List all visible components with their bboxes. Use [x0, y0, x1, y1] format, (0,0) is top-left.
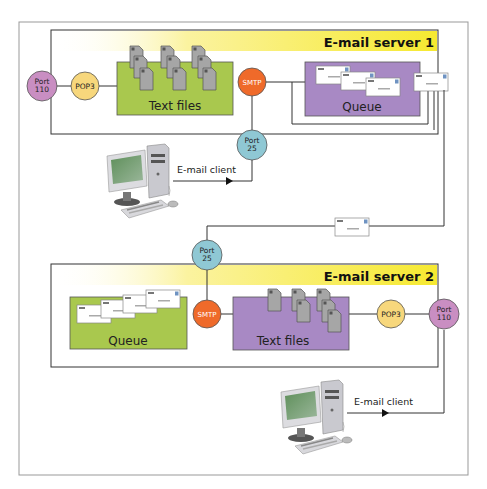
svg-text:SMTP: SMTP [198, 311, 217, 319]
queue-label-2: Queue [108, 334, 147, 348]
smtp-node-2: SMTP [193, 300, 221, 328]
svg-text:SMTP: SMTP [243, 79, 262, 87]
pop3-node-1: POP3 [71, 72, 99, 100]
port-110-node-1: Port 110 [27, 71, 57, 101]
port-25-node-1: Port 25 [237, 130, 267, 160]
queue-label-1: Queue [342, 100, 381, 114]
svg-text:POP3: POP3 [75, 82, 95, 91]
email-flow-diagram: E-mail server 1 Text files Queue Port 11… [0, 0, 487, 489]
pop3-node-2: POP3 [377, 300, 405, 328]
smtp-node-1: SMTP [238, 68, 266, 96]
svg-text:110: 110 [35, 85, 50, 94]
text-files-label-1: Text files [148, 99, 202, 113]
server2-title: E-mail server 2 [324, 269, 434, 284]
svg-text:25: 25 [202, 254, 212, 263]
client1-label: E-mail client [177, 164, 236, 175]
envelope-icon [335, 218, 369, 236]
port-25-node-2: Port 25 [192, 240, 222, 270]
server1-title: E-mail server 1 [324, 35, 434, 50]
svg-text:25: 25 [247, 144, 257, 153]
port-110-node-2: Port 110 [429, 299, 459, 329]
client2-label: E-mail client [354, 396, 413, 407]
text-files-label-2: Text files [256, 334, 310, 348]
svg-text:110: 110 [437, 313, 452, 322]
svg-text:POP3: POP3 [381, 310, 401, 319]
